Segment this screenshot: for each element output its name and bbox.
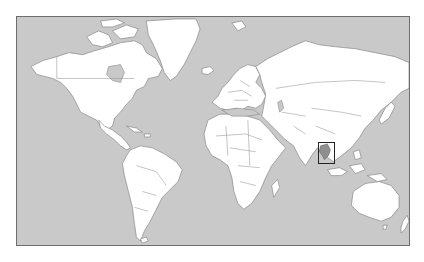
north-america: [31, 41, 162, 130]
iceland: [202, 67, 214, 75]
new-zealand: [401, 215, 409, 233]
highlight-box-thailand: [318, 142, 335, 164]
world-map-graphic: [17, 17, 409, 245]
svalbard: [232, 21, 246, 31]
south-america: [122, 146, 182, 241]
caribbean-islands: [126, 126, 150, 137]
madagascar: [272, 180, 280, 198]
central-america: [99, 120, 131, 150]
tasmania: [383, 225, 387, 229]
australia: [351, 182, 399, 222]
world-map: [16, 16, 410, 246]
europe: [212, 65, 266, 111]
